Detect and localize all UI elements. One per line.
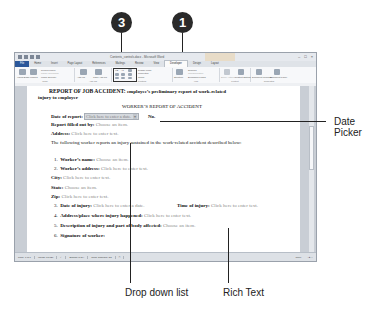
date-picker-control-icon[interactable]	[115, 77, 119, 79]
tab-developer[interactable]: Developer	[164, 60, 188, 67]
schema-button[interactable]: Schema	[188, 69, 196, 71]
item-signature: 6. Signature of worker:	[54, 233, 105, 238]
combo-box-control-icon[interactable]	[121, 73, 125, 76]
macro-security-button[interactable]: Macro Security	[41, 76, 56, 78]
com-addins-icon[interactable]	[95, 69, 102, 75]
worker-address-rich-text[interactable]: Click here to enter text.	[101, 166, 148, 171]
heading-line-1: REPORT OF JOB ACCIDENT: employee’s preli…	[49, 88, 226, 94]
date-picker-control[interactable]: Click here to enter a date.▾	[84, 113, 139, 120]
callout-1: 1	[172, 12, 193, 33]
worker-name-dropdown[interactable]: Choose an item.	[96, 157, 128, 162]
transformation-button[interactable]: Transformation	[188, 72, 203, 74]
pause-recording-button[interactable]: Pause Recording	[41, 72, 59, 74]
block-authors-icon[interactable]	[224, 69, 230, 75]
state-dropdown[interactable]: Choose an item.	[65, 185, 97, 190]
address-place-rich-text[interactable]: Click here to enter text.	[144, 213, 191, 218]
group-controls-label: Controls	[112, 80, 172, 82]
worker-report-title: WORKER’S REPORT OF ACCIDENT	[122, 104, 202, 109]
address-rich-text[interactable]: Click here to enter text.	[71, 131, 118, 136]
proofing-icon[interactable]: ✓	[57, 256, 66, 259]
document-panel-button[interactable]: Document Panel	[270, 76, 287, 78]
addins-button[interactable]: Add-Ins	[77, 76, 85, 78]
status-page[interactable]: Page: 1 of 1	[15, 256, 35, 259]
document-page: REPORT OF JOB ACCIDENT: employee’s preli…	[27, 86, 300, 254]
group-protect-label: Protect	[220, 80, 250, 82]
status-language[interactable]: English (U.S.)	[66, 256, 88, 259]
callout-3: 3	[111, 12, 132, 33]
macros-button[interactable]: Macros	[30, 76, 38, 78]
date-picker-label: Date Picker	[334, 116, 362, 138]
time-of-injury-rich-text[interactable]: Click here to enter text.	[211, 203, 258, 208]
item-worker-name: 1. Worker’s name: Choose an item.	[54, 157, 129, 162]
plain-text-control-button[interactable]: Aa	[121, 69, 124, 71]
document-template-icon[interactable]	[256, 69, 262, 75]
quick-access-toolbar	[18, 55, 40, 59]
group-templates-label: Templates	[251, 80, 287, 82]
vertical-scrollbar[interactable]	[309, 86, 314, 254]
checkbox-control-icon[interactable]	[121, 77, 125, 79]
status-bar: Page: 1 of 1 Words: 81/126 ✓ English (U.…	[15, 252, 316, 261]
heading-line-2: injury to employer	[38, 95, 78, 100]
word-window: Contents_controls.docx - Microsoft Word …	[14, 52, 317, 262]
zoom-slider[interactable]: –●–+	[305, 256, 317, 259]
drop-down-list-label: Drop down list	[125, 287, 188, 298]
group-protect: Block Authors Restrict Editing Protect	[220, 68, 251, 82]
maximize-button[interactable]: □	[304, 54, 306, 59]
report-filled-dropdown[interactable]: Choose an item.	[96, 122, 128, 127]
record-macro-button[interactable]: Record Macro	[41, 69, 55, 71]
zoom-level[interactable]: 100%	[292, 256, 304, 259]
group-controls: Aa Aa Design Mode Properties Group Contr…	[112, 68, 173, 82]
undo-icon[interactable]	[30, 55, 34, 59]
addins-icon[interactable]	[80, 69, 87, 75]
properties-button[interactable]: Properties	[138, 72, 148, 74]
minimize-button[interactable]: –	[298, 54, 300, 59]
group-button[interactable]: Group	[138, 76, 144, 78]
group-templates: Document Template Document Panel Templat…	[251, 68, 287, 82]
expansion-packs-button[interactable]: Expansion Packs	[188, 76, 206, 78]
visual-basic-icon[interactable]	[19, 69, 26, 75]
structure-button[interactable]: Structure	[174, 76, 183, 78]
legacy-tools-icon[interactable]	[128, 77, 132, 79]
macros-icon[interactable]	[30, 69, 37, 75]
zip-row: Zip: Click here to enter text.	[51, 194, 109, 199]
drop-down-list-control-icon[interactable]	[128, 73, 132, 76]
building-block-control-icon[interactable]	[115, 73, 119, 76]
structure-icon[interactable]	[176, 69, 183, 75]
rich-text-control-button[interactable]: Aa	[115, 69, 118, 71]
design-mode-button[interactable]: Design Mode	[138, 69, 152, 71]
document-panel-icon[interactable]	[274, 69, 280, 75]
date-of-injury-picker[interactable]: Click here to enter a date.	[93, 203, 144, 208]
report-filled-row: Report filled out by: Choose an item.	[51, 122, 128, 127]
group-code-label: Code	[16, 80, 74, 82]
block-authors-button[interactable]: Block Authors	[221, 76, 235, 78]
redo-icon[interactable]	[36, 55, 40, 59]
group-addins: Add-Ins COM Add-Ins Add-Ins	[75, 68, 112, 82]
zip-rich-text[interactable]: Click here to enter text.	[61, 194, 108, 199]
description-dropdown[interactable]: Choose an item.	[163, 223, 195, 228]
window-controls: – □ ×	[298, 54, 313, 59]
status-words[interactable]: Words: 81/126	[35, 256, 58, 259]
table-tools-context	[205, 53, 235, 61]
group-xml-label: XML	[173, 80, 219, 82]
group-xml: Structure Schema Transformation Expansio…	[173, 68, 220, 82]
date-picker-dropdown-arrow[interactable]: ▾	[133, 114, 137, 119]
close-button[interactable]: ×	[311, 54, 313, 59]
time-of-injury-row: Time of injury: Click here to enter text…	[177, 203, 258, 208]
com-addins-button[interactable]: COM Add-Ins	[93, 76, 107, 78]
macro-record-icon[interactable]: □	[116, 256, 124, 259]
drop-down-callout-line	[130, 143, 131, 283]
date-of-report-row: Date of report: Click here to enter a da…	[51, 113, 155, 120]
restrict-editing-icon[interactable]	[238, 69, 244, 75]
address-row: Address: Click here to enter text.	[51, 131, 118, 136]
visual-basic-button[interactable]: Visual Basic	[17, 76, 29, 78]
save-icon[interactable]	[24, 55, 28, 59]
picture-control-icon[interactable]	[128, 69, 132, 72]
intro-paragraph: The following worker reports an injury s…	[38, 140, 283, 146]
group-addins-label: Add-Ins	[75, 80, 111, 82]
status-track-changes[interactable]: Track Changes: Off	[88, 256, 116, 259]
state-row: State: Choose an item.	[51, 185, 97, 190]
left-margin-area	[15, 86, 27, 254]
city-rich-text[interactable]: Click here to enter text.	[63, 175, 110, 180]
restrict-editing-button[interactable]: Restrict Editing	[235, 76, 250, 78]
scrollbar-thumb[interactable]	[309, 126, 314, 170]
